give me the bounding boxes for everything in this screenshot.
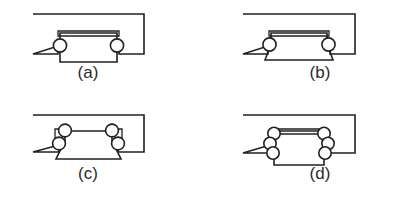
carriage-outline-b: [243, 14, 355, 54]
ball-b-left: [263, 38, 276, 51]
carriage-outline-c: [33, 115, 144, 152]
panel-caption-c: (c): [0, 165, 190, 182]
panel-caption-a: (a): [0, 64, 190, 81]
cross-section-drawing-c: [0, 101, 204, 202]
ball-b-right: [322, 38, 335, 51]
figure-root: (a) (b): [0, 0, 409, 202]
panel-caption-b: (b): [218, 64, 409, 81]
diagram-panel-d: (d): [205, 101, 409, 202]
panel-caption-d: (d): [218, 165, 409, 182]
rail-block-outline-a: [60, 33, 117, 62]
ball-a-right: [110, 39, 123, 52]
diagram-panel-b: (b): [205, 0, 409, 101]
cross-section-drawing-b: [205, 0, 409, 101]
diagram-panel-a: (a): [0, 0, 204, 101]
ball-c-lower-left: [53, 137, 66, 150]
ball-c-lower-right: [112, 137, 125, 150]
ball-d-right-bottom: [319, 147, 331, 159]
cross-section-drawing-d: [205, 101, 409, 202]
ball-d-left-bottom: [267, 147, 279, 159]
ball-a-left: [53, 39, 66, 52]
carriage-outline-a: [33, 14, 144, 54]
cross-section-drawing-a: [0, 0, 204, 101]
ball-c-upper-right: [106, 124, 119, 137]
ball-c-upper-left: [59, 124, 72, 137]
diagram-panel-c: (c): [0, 101, 204, 202]
rail-block-outline-d: [274, 131, 324, 165]
